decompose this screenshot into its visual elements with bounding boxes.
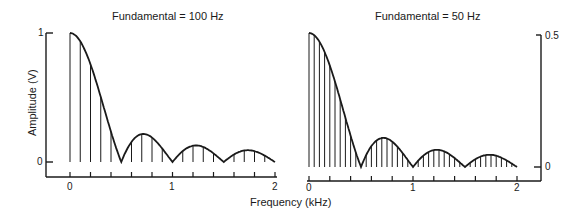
right-x-tick-1: 1 [410,182,416,193]
left-x-tick-0: 0 [67,181,73,192]
right-x-tick-2: 2 [514,182,520,193]
left-y-tick-zero: 0 [37,156,43,167]
left-x-tick-2: 2 [272,181,278,192]
right-x-tick-0: 0 [306,182,312,193]
left-y-tick-top: 1 [38,27,44,38]
x-axis-label: Frequency (kHz) [250,196,331,208]
y-axis-label: Amplitude (V) [26,69,38,136]
left-chart-title: Fundamental = 100 Hz [112,10,224,22]
right-chart-title: Fundamental = 50 Hz [375,10,480,22]
left-plot [46,33,277,177]
left-x-tick-1: 1 [169,181,175,192]
figure-canvas [0,0,582,217]
right-y-tick-zero: 0 [545,161,551,172]
right-y-tick-top: 0.5 [545,30,559,41]
right-plot [307,33,541,181]
